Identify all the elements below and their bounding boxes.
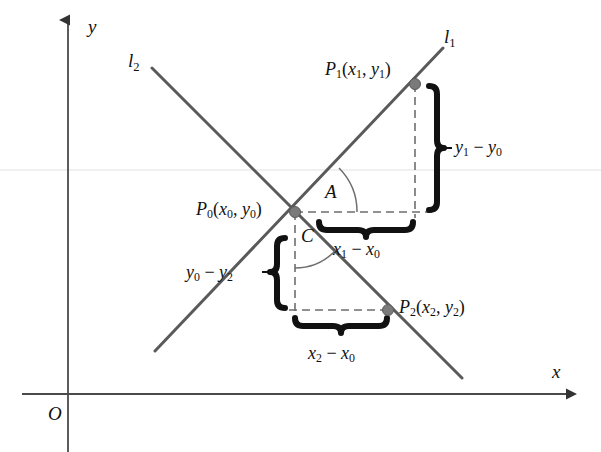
brace-rise-1 <box>429 86 444 210</box>
segment-label-rise-1: y1 − y0 <box>455 138 502 159</box>
segment-label-run-2: x2 − x0 <box>308 344 355 365</box>
P0-close: ) <box>256 199 262 219</box>
angle-arc-A <box>339 168 357 212</box>
run2-t1: x <box>308 343 316 363</box>
P1-y: y <box>371 59 379 79</box>
P1-p: P <box>325 59 336 79</box>
P0-x: x <box>219 199 227 219</box>
rise1-t2: y <box>488 137 496 157</box>
angle-arc-C <box>295 251 335 268</box>
line-label-l1-sub: 1 <box>449 36 455 50</box>
P2-y: y <box>445 297 453 317</box>
P2-p: P <box>399 297 410 317</box>
run1-t2: x <box>366 239 374 259</box>
point-P0 <box>290 207 301 218</box>
run1-t1: x <box>333 239 341 259</box>
P1-comma: , <box>362 59 371 79</box>
line-label-l2-sub: 2 <box>133 60 139 74</box>
line-label-l1: l1 <box>444 27 456 49</box>
segment-label-rise-2: y0 − y2 <box>186 263 233 284</box>
P0-y: y <box>242 199 250 219</box>
rise2-op: − <box>200 262 219 282</box>
y-axis-label: y <box>88 17 96 36</box>
P2-x: x <box>422 297 430 317</box>
brace-run-1 <box>319 222 413 237</box>
rise2-t2: y <box>219 262 227 282</box>
x-axis-label: x <box>552 362 560 381</box>
point-label-P2: P2(x2, y2) <box>399 298 465 319</box>
P2-comma: , <box>436 297 445 317</box>
line-label-l2: l2 <box>128 51 140 73</box>
P0-p: P <box>196 199 207 219</box>
segment-label-run-1: x1 − x0 <box>333 240 380 261</box>
rise1-op: − <box>469 137 488 157</box>
P1-close: ) <box>385 59 391 79</box>
rise2-t2-sub: 2 <box>227 270 233 284</box>
run2-t2-sub: 0 <box>349 351 355 365</box>
rise1-t2-sub: 0 <box>496 145 502 159</box>
geometry-figure: y x O l1 l2 P0(x0, y0) P1(x1, y1) P2(x2,… <box>0 0 601 452</box>
origin-label: O <box>48 404 62 423</box>
rise2-t1: y <box>186 262 194 282</box>
run2-t2: x <box>341 343 349 363</box>
run1-op: − <box>347 239 366 259</box>
angle-label-C: C <box>301 226 314 245</box>
point-label-P0: P0(x0, y0) <box>196 200 262 221</box>
run1-t2-sub: 0 <box>374 247 380 261</box>
P0-comma: , <box>233 199 242 219</box>
rise1-t1: y <box>455 137 463 157</box>
point-P1 <box>410 79 421 90</box>
brace-rise-2 <box>270 238 285 308</box>
P2-close: ) <box>459 297 465 317</box>
point-P2 <box>383 305 394 316</box>
P1-x: x <box>348 59 356 79</box>
run2-op: − <box>322 343 341 363</box>
angle-label-A: A <box>325 182 337 201</box>
point-label-P1: P1(x1, y1) <box>325 60 391 81</box>
brace-run-2 <box>295 318 387 333</box>
